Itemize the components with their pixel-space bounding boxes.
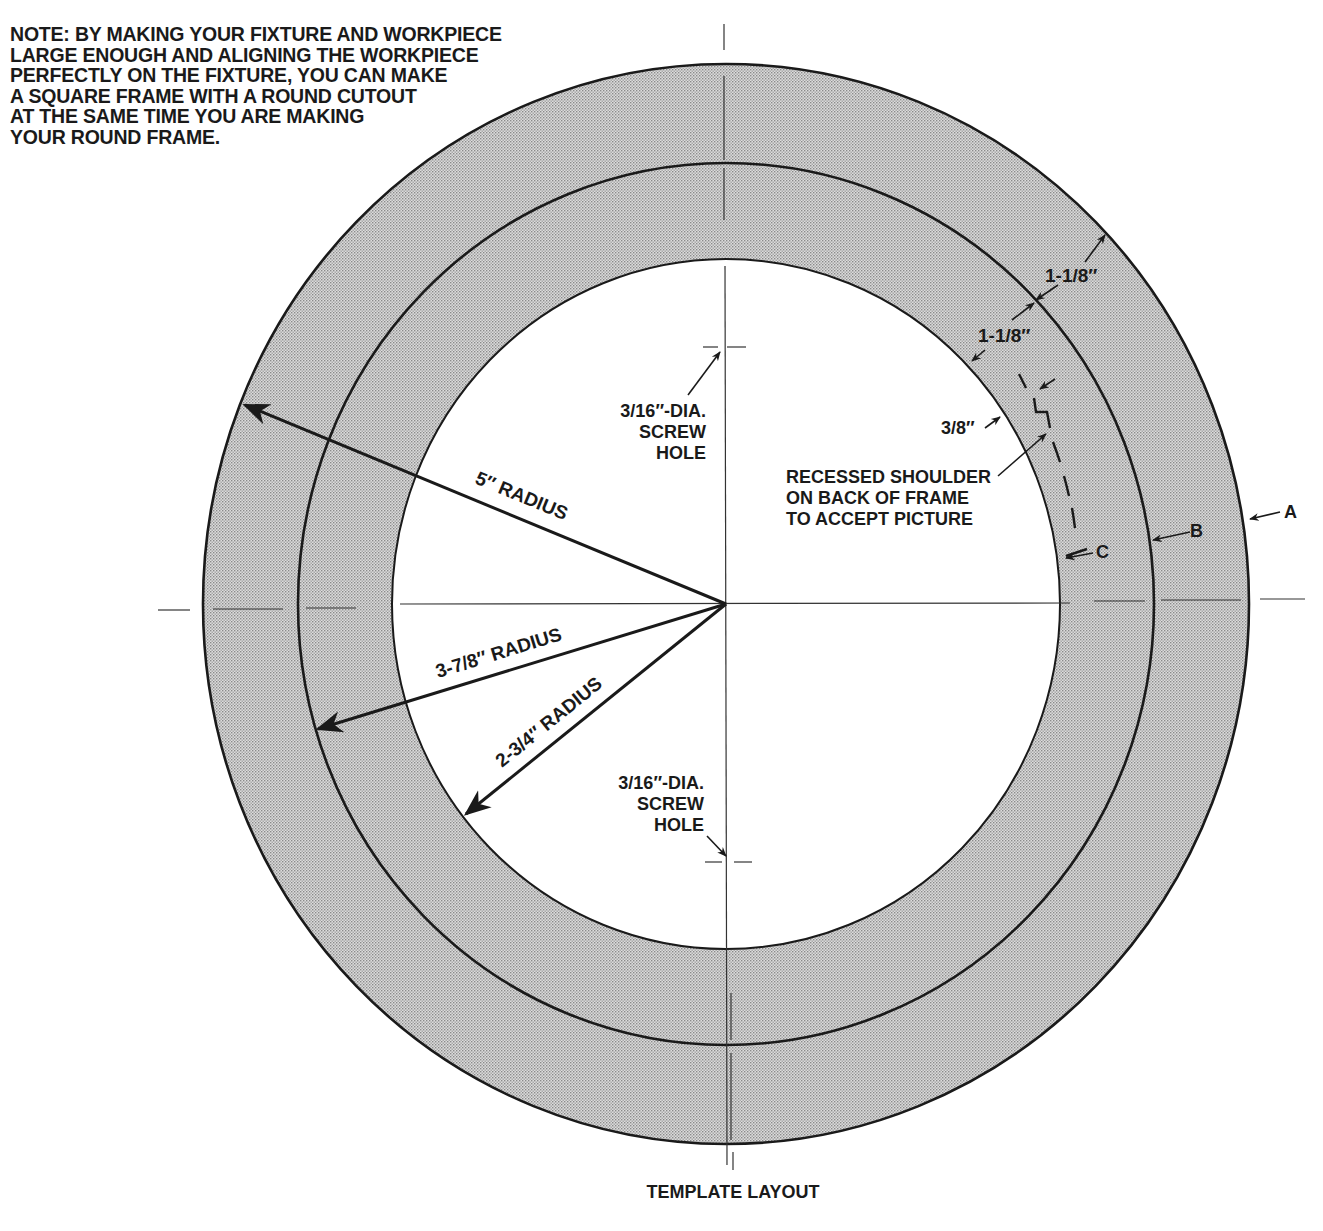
recessed-shoulder-line1: RECESSED SHOULDER	[786, 467, 991, 487]
diagram-caption: TEMPLATE LAYOUT	[646, 1182, 819, 1202]
label-a: A	[1284, 502, 1297, 522]
label-c: C	[1096, 542, 1109, 562]
band-outer-dim-label: 1-1/8″	[1045, 265, 1097, 286]
frame-ring	[0, 0, 1323, 1231]
recessed-shoulder-line3: TO ACCEPT PICTURE	[786, 509, 973, 529]
screw-hole-top-line2: SCREW	[639, 422, 706, 442]
screw-hole-top-line3: HOLE	[656, 443, 706, 463]
recessed-shoulder-label: RECESSED SHOULDER ON BACK OF FRAME TO AC…	[786, 467, 991, 529]
screw-hole-bottom-line2: SCREW	[637, 794, 704, 814]
label-b: B	[1190, 521, 1203, 541]
screw-hole-top-line1: 3/16″-DIA.	[620, 401, 706, 421]
screw-hole-bottom-line1: 3/16″-DIA.	[618, 773, 704, 793]
recessed-shoulder-line2: ON BACK OF FRAME	[786, 488, 969, 508]
shoulder-dim-label: 3/8″	[941, 418, 975, 438]
screw-hole-bottom-line3: HOLE	[654, 815, 704, 835]
template-diagram: 5″ RADIUS 3-7/8″ RADIUS 2-3/4″ RADIUS 3/…	[0, 0, 1323, 1231]
band-inner-dim-label: 1-1/8″	[978, 325, 1030, 346]
